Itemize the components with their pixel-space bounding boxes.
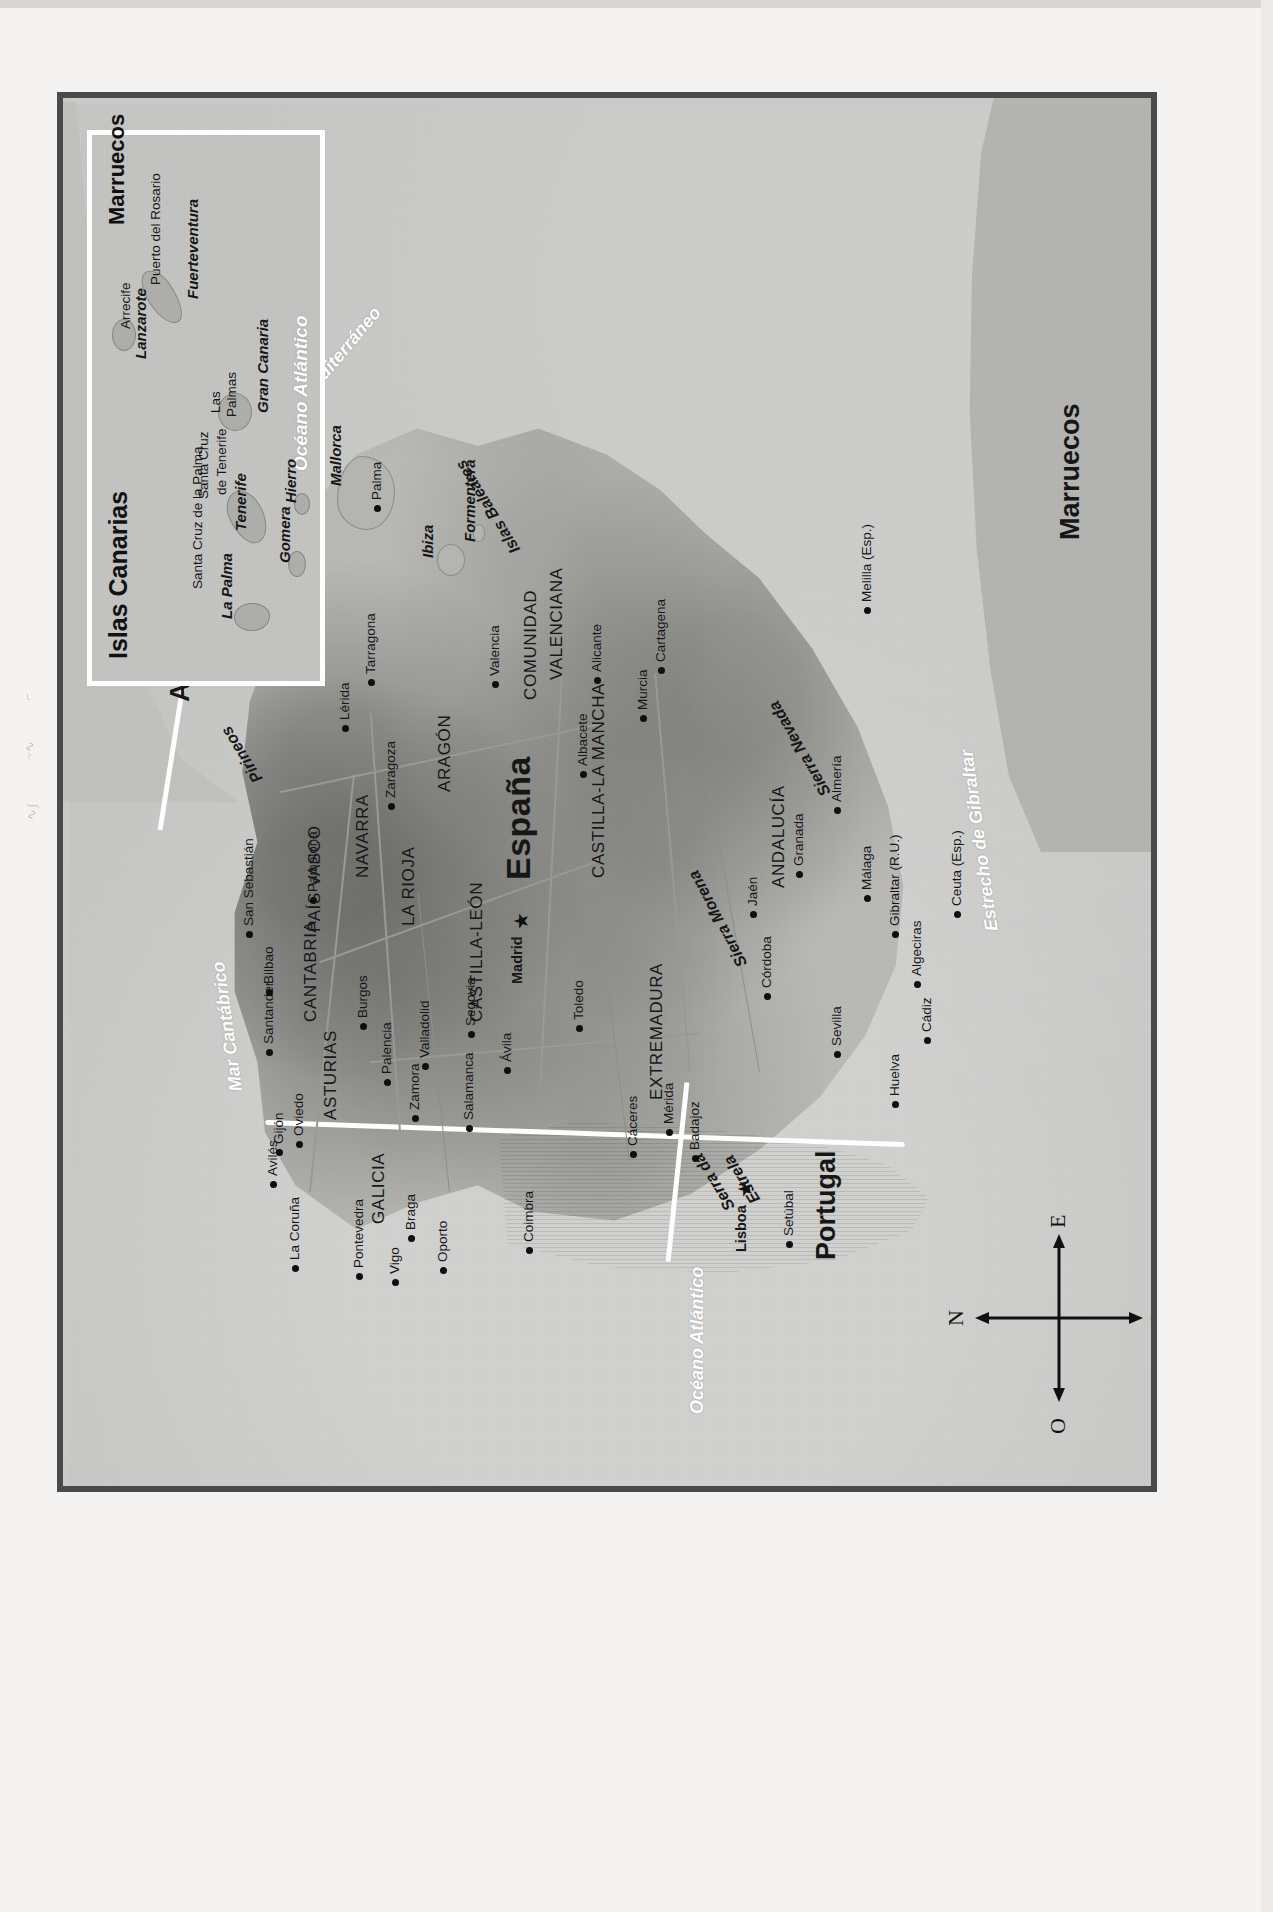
map-canvas-rotated: EspañaPortugalAndorraMarruecosGALICIAAST…	[69, 104, 1157, 1492]
margin-scribble: ∿ʃ	[24, 803, 40, 820]
margin-scribble: ~∿	[22, 740, 38, 760]
scan-grain-overlay	[69, 104, 1157, 1492]
scanned-page: ⌐ ~∿ ∿ʃ	[0, 0, 1273, 1912]
margin-scribble: ⌐	[20, 692, 36, 700]
scan-right-edge	[1261, 0, 1273, 1912]
scan-top-band	[0, 0, 1273, 8]
map-frame: EspañaPortugalAndorraMarruecosGALICIAAST…	[57, 92, 1157, 1492]
map-canvas: EspañaPortugalAndorraMarruecosGALICIAAST…	[69, 104, 1157, 1492]
